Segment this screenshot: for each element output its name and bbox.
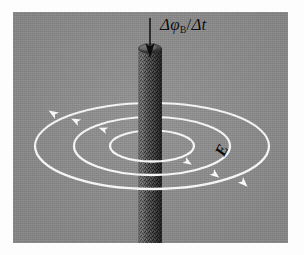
flux-rate-denominator: Δt: [191, 15, 206, 34]
arrowhead-outer-front: [238, 177, 250, 189]
arrowhead-inner-front: [182, 157, 193, 168]
figure-root: ΔφB/Δt E: [0, 0, 304, 255]
arrowhead-middle-back: [70, 115, 82, 126]
arrowhead-middle-front: [210, 169, 222, 181]
arrowhead-inner-back: [98, 125, 109, 134]
flux-rate-label: ΔφB/Δt: [160, 16, 207, 35]
flux-rate-numerator: Δφ: [160, 15, 180, 34]
arrowhead-outer-back: [47, 107, 60, 119]
diagram-canvas: [0, 0, 304, 255]
magnetic-field-region-cylinder: [139, 44, 162, 244]
cylinder-body-shading: [139, 48, 162, 244]
